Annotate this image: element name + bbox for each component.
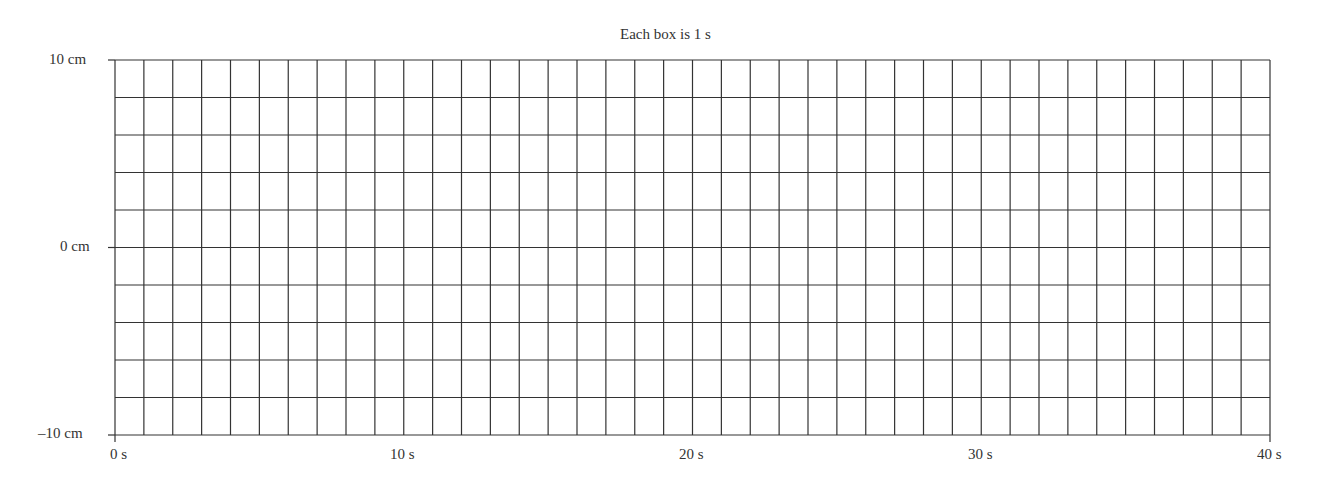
x-tick-label-40: 40 s (1257, 446, 1282, 463)
y-tick-label-middle: 0 cm (60, 238, 90, 255)
x-tick-label-20: 20 s (679, 446, 704, 463)
position-time-grid (0, 0, 1328, 491)
x-tick-label-0: 0 s (110, 446, 127, 463)
x-tick-label-10: 10 s (390, 446, 415, 463)
x-tick-label-30: 30 s (968, 446, 993, 463)
chart-title: Each box is 1 s (620, 26, 711, 43)
y-tick-label-bottom: –10 cm (38, 425, 83, 442)
y-tick-label-top: 10 cm (49, 51, 86, 68)
